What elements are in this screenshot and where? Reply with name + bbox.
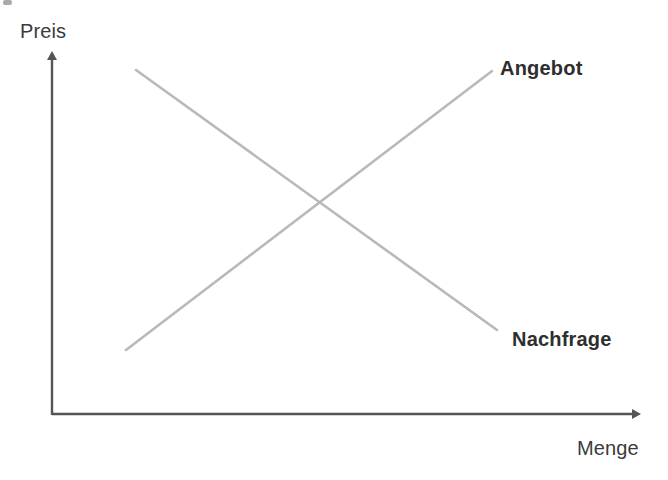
supply-demand-diagram: Preis Menge Angebot Nachfrage (0, 0, 668, 480)
y-axis-label: Preis (20, 20, 66, 43)
scan-artifact-mark (3, 0, 12, 5)
supply-curve-label: Angebot (500, 57, 583, 80)
x-axis-label: Menge (577, 437, 639, 460)
supply-curve (126, 71, 492, 350)
demand-curve-label: Nachfrage (512, 328, 612, 351)
